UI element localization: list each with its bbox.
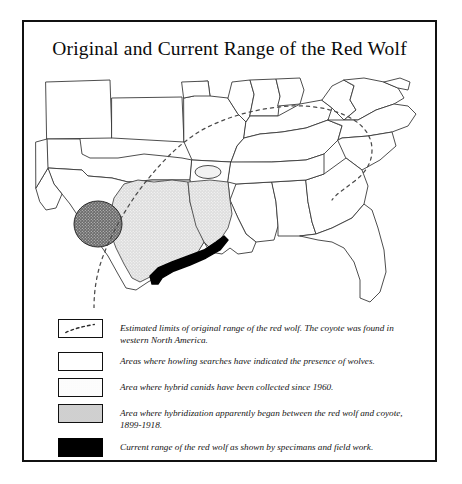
legend-item-label: Area where hybrid canids have been colle… [120,378,333,393]
howling-search-area [195,166,221,179]
legend-item-label: Areas where howling searches have indica… [120,352,375,367]
legend-item: Areas where howling searches have indica… [58,352,430,372]
dark-stipple-swatch [58,404,103,423]
dashed-line-swatch [58,319,103,338]
legend-item-label: Estimated limits of original range of th… [120,319,422,346]
legend-item: Area where hybridization apparently bega… [58,404,430,431]
legend-item: Estimated limits of original range of th… [58,319,430,346]
legend-item-label: Area where hybridization apparently bega… [120,404,422,431]
white-area-swatch [58,352,103,371]
solid-black-swatch [58,438,103,457]
map-legend: Estimated limits of original range of th… [58,319,430,464]
legend-item-label: Current range of the red wolf as shown b… [120,438,373,453]
page-title: Original and Current Range of the Red Wo… [24,38,435,60]
legend-item: Current range of the red wolf as shown b… [58,438,430,458]
legend-item: Area where hybrid canids have been colle… [58,378,430,398]
light-stipple-swatch [58,378,103,397]
range-map [32,76,430,308]
hybridization-origin-area [74,201,122,247]
map-svg [32,76,430,308]
figure-frame: Original and Current Range of the Red Wo… [22,20,437,462]
